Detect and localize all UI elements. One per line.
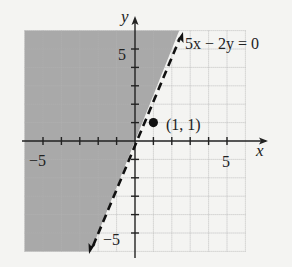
y-tick-label-neg5: −5	[103, 231, 120, 248]
test-point-dot	[149, 118, 158, 127]
x-tick-label-5: 5	[222, 153, 230, 170]
x-axis-label: x	[255, 141, 264, 160]
x-tick-label-neg5: −5	[29, 152, 46, 169]
inequality-graph: y x −5 5 5 −5 5x − 2y = 0 (1, 1)	[0, 0, 292, 267]
equation-label: 5x − 2y = 0	[185, 35, 259, 53]
y-tick-label-5: 5	[118, 46, 126, 63]
y-axis-label: y	[119, 7, 129, 26]
test-point-label: (1, 1)	[166, 116, 201, 134]
